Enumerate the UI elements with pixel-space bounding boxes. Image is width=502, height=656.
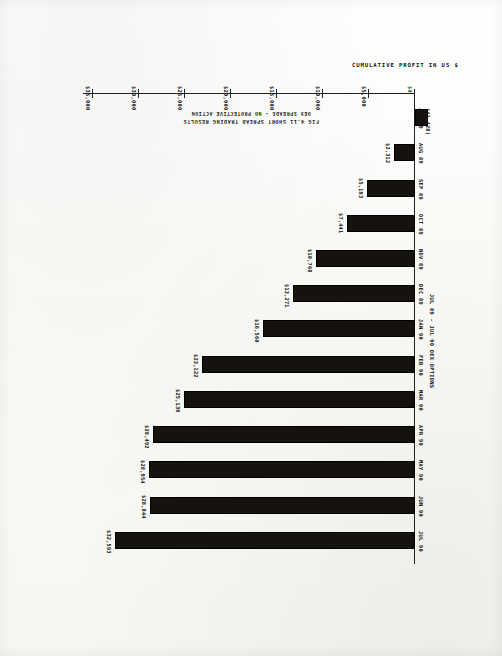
axis-tick-label: $5,000: [361, 86, 367, 107]
axis-tick: [276, 89, 277, 98]
bar: [367, 180, 415, 197]
bar-row: [93, 391, 415, 408]
bar: [293, 285, 415, 302]
bar-row: [93, 180, 415, 197]
bar-row: [93, 356, 415, 373]
bar-row: [93, 215, 415, 232]
bar: [184, 391, 415, 408]
axis-tick: [184, 89, 185, 98]
axis-tick: [138, 89, 139, 98]
category-label: AUG 89: [418, 143, 424, 164]
category-label: MAR 90: [418, 390, 424, 411]
category-label: OCT 89: [418, 214, 424, 235]
bar-value-label: $16,560: [254, 319, 260, 343]
bar-row: [93, 109, 415, 126]
category-label: APR 90: [418, 425, 424, 446]
bar: [202, 356, 415, 373]
axis-tick-label: $20,000: [223, 86, 229, 110]
axis-tick: [414, 89, 415, 98]
series-note: JUL 89 - JUL 90 OEX OPTIONS: [429, 295, 435, 389]
bar: [316, 250, 415, 267]
rotated-figure-canvas: FIG 4.11 SHORT SPREAD TRADING RESULTS OE…: [0, 0, 502, 656]
bar-value-label: $28,492: [144, 425, 150, 449]
axis-tick: [368, 89, 369, 98]
axis-tick: [92, 89, 93, 98]
category-label: FEB 90: [418, 355, 424, 376]
bar: [150, 497, 415, 514]
axis-tick-label: $0: [407, 86, 413, 93]
bar-value-label: $23,122: [193, 354, 199, 378]
axis-tick-label: $35,000: [85, 86, 91, 110]
bar-row: [93, 144, 415, 161]
axis-tick-label: $15,000: [269, 86, 275, 110]
axis-tick-label: $30,000: [131, 86, 137, 110]
scanned-page: FIG 4.11 SHORT SPREAD TRADING RESULTS OE…: [0, 0, 502, 656]
category-label: JUL 90: [418, 531, 424, 552]
category-label: DEC 89: [418, 284, 424, 305]
bar-value-label: $13,271: [284, 284, 290, 308]
value-axis-title-wrap: CUMULATIVE PROFIT IN US $: [250, 52, 260, 62]
bar-value-label: $2,312: [385, 143, 391, 163]
axis-tick: [322, 89, 323, 98]
axis-tick-label: $10,000: [315, 86, 321, 110]
bar-value-label: ($1,428): [425, 108, 431, 135]
bar-value-label: $28,954: [140, 460, 146, 484]
bar: [153, 426, 415, 443]
category-label: JAN 90: [418, 320, 424, 341]
bar-row: [93, 285, 415, 302]
bar-value-label: $32,593: [106, 530, 112, 554]
bar: [149, 461, 415, 478]
plot-area: $0$5,000$10,000$15,000$20,000$25,000$30,…: [76, 84, 436, 564]
bar-value-label: $10,768: [307, 249, 313, 273]
category-label: MAY 90: [418, 460, 424, 481]
bar-row: [93, 250, 415, 267]
bar-value-label: $5,193: [358, 178, 364, 198]
bar: [263, 321, 415, 338]
bar-value-label: $25,139: [175, 389, 181, 413]
bar-value-label: $28,844: [141, 495, 147, 519]
value-axis-title: CUMULATIVE PROFIT IN US $: [352, 62, 459, 68]
bar-row: [93, 426, 415, 443]
category-label: NOV 89: [418, 249, 424, 270]
bar-value-label: $7,441: [338, 213, 344, 233]
axis-tick-label: $25,000: [177, 86, 183, 110]
bar: [347, 215, 415, 232]
category-label: SEP 89: [418, 179, 424, 200]
bar: [394, 144, 415, 161]
category-label: JUL 89: [418, 108, 424, 129]
bar: [115, 532, 415, 549]
axis-tick: [230, 89, 231, 98]
category-label: JUN 90: [418, 496, 424, 517]
bar-row: [93, 532, 415, 549]
